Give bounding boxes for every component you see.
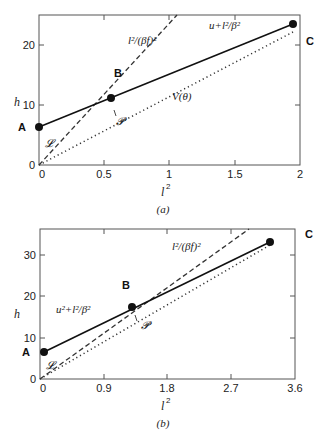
label-a: A xyxy=(18,121,26,133)
curve-label-dashed-b: l²/(βf)² xyxy=(172,240,201,253)
figure: 0 0.5 1 1.5 2 0 10 20 h l 2 (a) A B C u+… xyxy=(0,0,326,443)
point-b xyxy=(128,303,136,311)
curve-label-solid-b: u²+l²/β² xyxy=(56,303,91,315)
x-tick-label: 0 xyxy=(40,382,46,394)
dotted-line-a xyxy=(39,32,293,165)
x-axis-label: l xyxy=(161,399,165,413)
x-tick-label: 0.9 xyxy=(96,382,111,394)
label-l-a: 𝓛 xyxy=(45,137,56,149)
label-a: A xyxy=(22,346,30,358)
x-axis-label-sup: 2 xyxy=(166,396,171,405)
x-tick-label: 0.5 xyxy=(96,168,111,180)
y-axis-label: h xyxy=(14,307,20,321)
label-b: B xyxy=(122,279,130,291)
x-tick-label: 1.5 xyxy=(227,168,242,180)
label-p-a: 𝓟 xyxy=(116,115,127,127)
x-axis-label-sup: 2 xyxy=(166,182,171,191)
panel-a: 0 0.5 1 1.5 2 0 10 20 h l 2 (a) A B C u+… xyxy=(14,15,314,216)
x-tick-label: 3.6 xyxy=(287,382,302,394)
curve-label-dashed-a: l²/(βf)² xyxy=(128,34,157,47)
y-tick-label: 0 xyxy=(30,373,36,385)
curve-label-dotted-a: V(θ) xyxy=(172,90,192,103)
point-b xyxy=(107,94,115,102)
x-tick-label: 2 xyxy=(297,168,303,180)
p-marker-b xyxy=(135,315,137,321)
solid-line-a xyxy=(39,24,293,127)
caption-b: (b) xyxy=(157,417,170,430)
x-tick-label: 2.7 xyxy=(223,382,238,394)
y-tick-label: 30 xyxy=(24,249,36,261)
panel-b: 0 0.9 1.8 2.7 3.6 0 10 20 30 h l 2 (b) A… xyxy=(14,228,313,430)
label-p-b: 𝓟 xyxy=(141,319,152,331)
y-tick-label: 10 xyxy=(23,99,35,111)
x-axis-label: l xyxy=(161,185,165,199)
label-c: C xyxy=(306,35,314,47)
x-tick-label: 1 xyxy=(166,168,172,180)
caption-a: (a) xyxy=(157,203,170,216)
y-axis-label: h xyxy=(14,95,20,109)
y-tick-label: 20 xyxy=(23,39,35,51)
y-tick-label: 0 xyxy=(29,159,35,171)
point-a xyxy=(35,123,43,131)
label-l-b: 𝓛 xyxy=(46,359,57,371)
point-c xyxy=(289,20,297,28)
y-tick-label: 20 xyxy=(24,290,36,302)
point-a xyxy=(40,348,48,356)
label-b: B xyxy=(114,67,122,79)
x-tick-label: 0 xyxy=(39,168,45,180)
y-tick-label: 10 xyxy=(24,332,36,344)
solid-line-b xyxy=(44,242,270,352)
label-c: C xyxy=(305,228,313,240)
point-c xyxy=(266,238,274,246)
curve-label-solid-a: u+l²/β² xyxy=(209,19,241,31)
x-tick-label: 1.8 xyxy=(159,382,174,394)
